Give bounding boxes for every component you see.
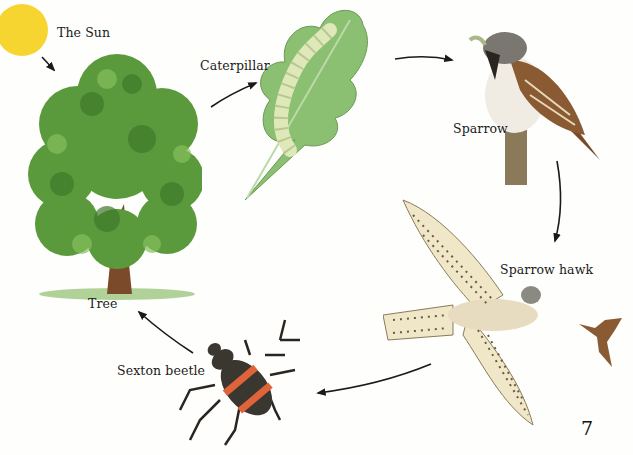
- label-the-sun: The Sun: [57, 25, 110, 40]
- label-sparrow: Sparrow: [453, 121, 508, 136]
- sparrow-illustration: [460, 20, 610, 190]
- flying-sparrow-illustration: [577, 312, 627, 372]
- arrow-caterpillar-to-sparrow: [395, 57, 452, 60]
- sparrow-hawk-illustration: [383, 195, 548, 435]
- label-tree: Tree: [88, 296, 118, 311]
- label-sexton-beetle: Sexton beetle: [117, 363, 205, 378]
- label-caterpillar: Caterpillar: [200, 58, 270, 73]
- label-sparrow-hawk: Sparrow hawk: [500, 262, 593, 277]
- food-chain-diagram: The Sun Tree Caterpillar Sparrow Sparrow…: [0, 0, 633, 455]
- sexton-beetle-illustration: [175, 315, 315, 450]
- caterpillar-illustration: [235, 0, 375, 205]
- page-number: 7: [581, 417, 593, 439]
- tree-illustration: [22, 44, 202, 304]
